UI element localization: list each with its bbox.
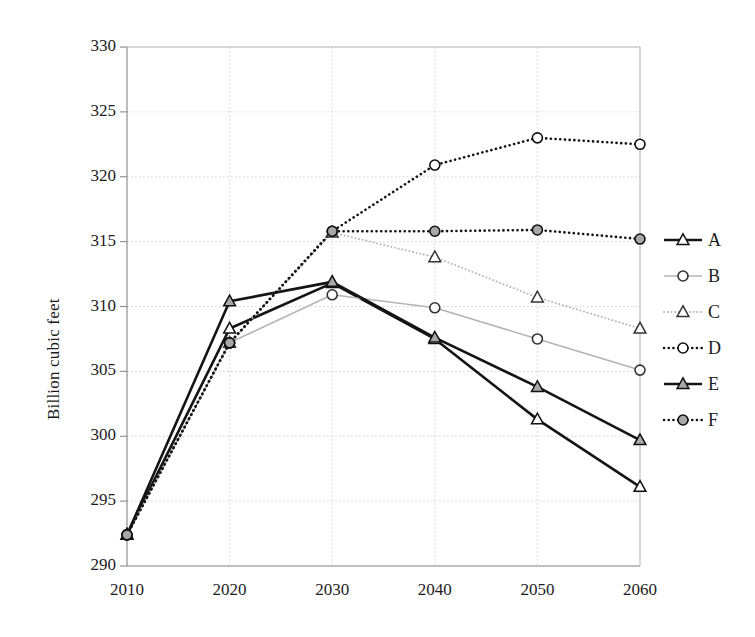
x-tick-2030: 2030 — [302, 580, 362, 600]
series-line-A — [127, 283, 640, 535]
series-line-D — [127, 138, 640, 535]
legend-item-C[interactable]: C — [662, 294, 752, 330]
legend-item-F[interactable]: F — [662, 402, 752, 438]
legend-item-D[interactable]: D — [662, 330, 752, 366]
chart-legend: ABCDEF — [662, 222, 752, 438]
legend-marker-C-icon — [662, 301, 704, 323]
y-tick-315: 315 — [64, 231, 116, 251]
series-line-B — [127, 295, 640, 535]
legend-label-D: D — [704, 339, 721, 357]
data-point-F-2040 — [430, 226, 440, 236]
y-tick-290: 290 — [64, 555, 116, 575]
data-point-C-2060 — [634, 322, 646, 333]
y-tick-320: 320 — [64, 166, 116, 186]
data-point-F-2010 — [122, 530, 132, 540]
legend-label-A: A — [704, 231, 721, 249]
legend-label-F: F — [704, 411, 718, 429]
legend-label-C: C — [704, 303, 720, 321]
legend-item-A[interactable]: A — [662, 222, 752, 258]
x-tick-2050: 2050 — [507, 580, 567, 600]
y-tick-300: 300 — [64, 425, 116, 445]
legend-marker-D-icon — [662, 337, 704, 359]
chart-figure: Billion cubic feet 290295300305310315320… — [0, 0, 755, 637]
data-point-C-2050 — [532, 291, 544, 302]
data-point-A-2060 — [634, 481, 646, 492]
data-point-B-2040 — [430, 303, 440, 313]
x-tick-2020: 2020 — [200, 580, 260, 600]
legend-item-B[interactable]: B — [662, 258, 752, 294]
series-lines — [127, 138, 640, 535]
legend-label-E: E — [704, 375, 719, 393]
y-tick-310: 310 — [64, 296, 116, 316]
data-point-D-2060 — [635, 139, 645, 149]
y-tick-330: 330 — [64, 36, 116, 56]
legend-marker-F-icon — [662, 409, 704, 431]
data-point-B-2060 — [635, 365, 645, 375]
x-tick-2060: 2060 — [610, 580, 670, 600]
series-markers — [121, 133, 646, 540]
y-tick-325: 325 — [64, 101, 116, 121]
line-chart-plot — [0, 0, 755, 637]
data-point-F-2020 — [225, 338, 235, 348]
x-tick-2040: 2040 — [405, 580, 465, 600]
data-point-B-2030 — [327, 290, 337, 300]
series-line-C — [127, 233, 640, 535]
data-point-F-2050 — [532, 225, 542, 235]
axis-ticks — [120, 47, 127, 566]
legend-marker-A-icon — [662, 229, 704, 251]
data-point-E-2030 — [326, 276, 338, 287]
data-point-B-2050 — [532, 334, 542, 344]
gridlines — [127, 47, 640, 566]
data-point-D-2050 — [532, 133, 542, 143]
legend-marker-E-icon — [662, 373, 704, 395]
series-line-E — [127, 282, 640, 535]
data-point-D-2040 — [430, 160, 440, 170]
legend-label-B: B — [704, 267, 720, 285]
data-point-F-2060 — [635, 234, 645, 244]
x-tick-2010: 2010 — [97, 580, 157, 600]
y-tick-305: 305 — [64, 360, 116, 380]
data-point-F-2030 — [327, 226, 337, 236]
legend-item-E[interactable]: E — [662, 366, 752, 402]
legend-marker-B-icon — [662, 265, 704, 287]
y-tick-295: 295 — [64, 490, 116, 510]
